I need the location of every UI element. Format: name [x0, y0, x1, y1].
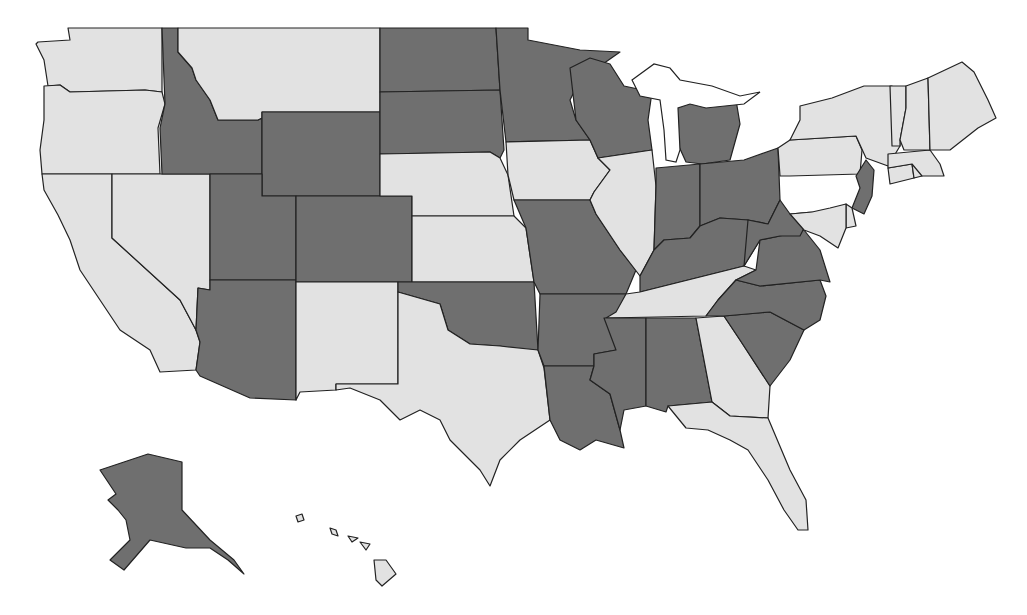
state-hi — [360, 542, 370, 550]
state-co — [296, 196, 412, 282]
state-hi — [348, 536, 358, 542]
state-hi — [296, 514, 304, 522]
state-fl — [668, 402, 808, 530]
state-wa — [36, 28, 162, 92]
map-canvas — [0, 0, 1027, 615]
state-or — [40, 85, 165, 174]
state-nd — [380, 28, 500, 92]
state-hi — [330, 528, 338, 536]
state-sd — [380, 90, 504, 158]
state-hi — [374, 560, 396, 586]
state-az — [196, 280, 296, 400]
state-nm — [296, 282, 398, 400]
us-choropleth-map — [0, 0, 1027, 615]
state-wy — [262, 112, 380, 196]
state-pa — [778, 136, 862, 176]
state-ks — [412, 216, 534, 282]
state-me — [928, 62, 996, 150]
state-ak — [100, 454, 244, 574]
